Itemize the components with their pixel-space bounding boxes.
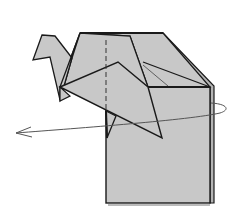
origami-diagram: Turn the model over — [0, 0, 240, 224]
diagram-svg — [0, 0, 240, 224]
